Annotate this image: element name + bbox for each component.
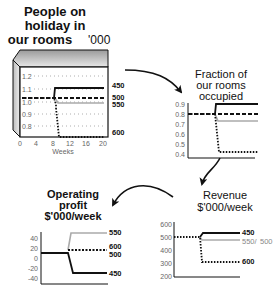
panel3-ytick: 400: [160, 247, 172, 254]
p4-label-500: 500: [109, 250, 122, 259]
p2-series-550: [215, 114, 258, 121]
p3-series-550: [200, 237, 240, 240]
panel4-title-line3: $'000/week: [44, 210, 102, 222]
panel1-xtick: 16: [82, 140, 90, 147]
panel1-ytick: 0.8: [22, 123, 32, 130]
panel1-ytick: 1.2: [22, 73, 32, 80]
panel-people-on-holiday: People on holiday in our rooms '000 1.2 …: [8, 4, 125, 155]
panel1-xtick: 8: [51, 140, 55, 147]
panel2-ytick: 0.9: [175, 101, 185, 108]
p3-label-600: 600: [242, 257, 255, 266]
system-dynamics-diagram: People on holiday in our rooms '000 1.2 …: [0, 0, 279, 294]
p4-label-550: 550: [109, 228, 122, 237]
p4-series-550: [68, 233, 107, 250]
panel3-ytick: 600: [160, 221, 172, 228]
panel2-ytick: 0.6: [175, 131, 185, 138]
p3-series-450: [200, 233, 240, 237]
panel3-ytick: 300: [160, 260, 172, 267]
panel2-ytick: 0.8: [175, 111, 185, 118]
panel1-title-line1: People on: [24, 4, 86, 19]
label-550: 550: [112, 100, 125, 109]
panel3-title-line2: $'000/week: [197, 201, 253, 213]
panel1-xtick: 0: [18, 140, 22, 147]
panel-revenue: Revenue $'000/week 600 500 400 300 200 4…: [160, 189, 272, 280]
panel1-title-line3: our rooms: [8, 32, 72, 47]
arrow-occupancy-to-revenue: [202, 158, 220, 184]
panel1-xtick: 12: [66, 140, 74, 147]
panel4-ytick: 0: [34, 255, 38, 262]
p3-label-550: 550/: [242, 237, 258, 246]
panel3-title-line1: Revenue: [203, 189, 247, 201]
panel1-title-unit: '000: [88, 33, 111, 47]
p2-series-600: [188, 114, 258, 152]
panel-fraction-occupied: Fraction of our rooms occupied 0.9 0.8 0…: [175, 68, 258, 158]
p2-series-450: [215, 104, 258, 114]
arrow-revenue-to-profit: [113, 186, 173, 205]
panel4-ytick: 20: [30, 245, 38, 252]
panel2-ytick: 0.5: [175, 141, 185, 148]
panel2-ytick: 0.4: [175, 151, 185, 158]
panel1-ytick: 0.9: [22, 111, 32, 118]
panel1-ytick: 1.0: [22, 99, 32, 106]
panel3-ytick: 500: [160, 234, 172, 241]
panel1-ytick: 1.1: [22, 86, 32, 93]
panel3-ytick: 200: [160, 273, 172, 280]
label-450: 450: [112, 81, 125, 90]
panel4-ytick: 40: [30, 235, 38, 242]
panel1-xtick: 4: [34, 140, 38, 147]
panel2-title-line3: occupied: [199, 90, 243, 102]
panel4-ytick: -40: [28, 275, 38, 282]
panel2-ytick: 0.7: [175, 121, 185, 128]
box-side-face: [13, 60, 20, 137]
arrow-people-to-occupancy: [125, 70, 181, 92]
label-600: 600: [112, 128, 125, 137]
p4-label-450: 450: [109, 269, 122, 278]
panel1-xlabel: Weeks: [52, 148, 74, 155]
p3-label-500: 500: [260, 237, 273, 246]
box-top-face: [13, 50, 108, 67]
panel1-xtick: 20: [99, 140, 107, 147]
p4-series-450: [41, 253, 107, 273]
panel1-title-line2: holiday in: [25, 18, 86, 33]
p3-label-450: 450: [242, 228, 255, 237]
panel4-ytick: -20: [28, 265, 38, 272]
panel-operating-profit: Operating profit $'000/week 40 20 0 -20 …: [28, 188, 122, 284]
